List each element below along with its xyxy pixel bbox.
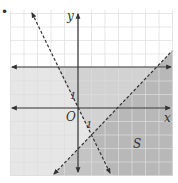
y-axis-label: y — [66, 9, 74, 23]
y-tick-label: 1 — [70, 90, 76, 101]
bullet-marker: • — [1, 5, 8, 19]
coordinate-plane: • — [0, 0, 178, 183]
x-axis-label: x — [164, 111, 171, 125]
origin-label: O — [66, 110, 76, 124]
region-label-S: S — [133, 137, 141, 151]
x-tick-label: 1 — [86, 119, 92, 130]
